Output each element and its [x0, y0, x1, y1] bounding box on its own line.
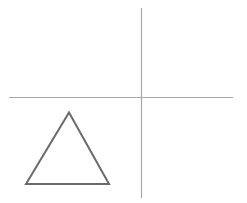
triangle-shape	[26, 113, 109, 185]
diagram-canvas	[0, 0, 247, 203]
diagram-svg	[0, 0, 247, 203]
